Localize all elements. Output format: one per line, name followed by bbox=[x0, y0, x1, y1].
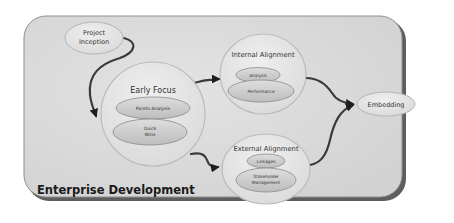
node-project-inception[interactable]: Project Inception bbox=[65, 22, 123, 54]
internal-alignment-item-performance[interactable]: Performance bbox=[228, 80, 294, 102]
early-focus-item-quick-wins[interactable]: Quick Wins bbox=[113, 119, 187, 145]
linkages-label: Linkages bbox=[257, 159, 277, 164]
performance-label: Performance bbox=[247, 89, 275, 94]
quick-wins-line1: Quick bbox=[144, 126, 157, 131]
node-embedding[interactable]: Embedding bbox=[357, 92, 415, 116]
node-early-focus[interactable]: Early Focus Pareto Analysis Quick Wins bbox=[101, 62, 205, 166]
diagram-title: Enterprise Development bbox=[37, 183, 195, 197]
embedding-label: Embedding bbox=[368, 101, 405, 109]
analysis-label: Analysis bbox=[249, 73, 267, 78]
early-focus-label: Early Focus bbox=[130, 86, 176, 95]
project-inception-line2: Inception bbox=[79, 38, 109, 46]
external-alignment-item-linkages[interactable]: Linkages bbox=[247, 154, 285, 168]
stakeholder-line1: Stakeholder bbox=[253, 174, 279, 179]
pareto-analysis-label: Pareto Analysis bbox=[136, 106, 171, 111]
project-inception-line1: Project bbox=[83, 29, 106, 37]
quick-wins-line2: Wins bbox=[145, 132, 156, 137]
stakeholder-line2: Management bbox=[252, 180, 281, 185]
node-internal-alignment[interactable]: Internal Alignment Analysis Performance bbox=[220, 34, 306, 114]
early-focus-item-pareto-analysis[interactable]: Pareto Analysis bbox=[116, 97, 190, 119]
external-alignment-label: External Alignment bbox=[233, 145, 299, 153]
node-external-alignment[interactable]: External Alignment Linkages Stakeholder … bbox=[222, 134, 310, 204]
external-alignment-item-stakeholder-management[interactable]: Stakeholder Management bbox=[236, 168, 296, 192]
internal-alignment-label: Internal Alignment bbox=[231, 51, 295, 59]
enterprise-development-diagram: Project Inception Early Focus Pareto Ana… bbox=[0, 0, 454, 223]
